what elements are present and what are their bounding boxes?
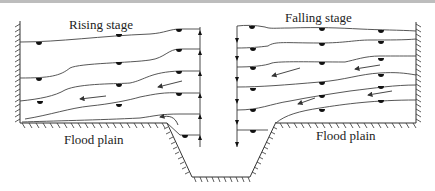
- falling-isolines: [237, 25, 416, 130]
- rising-isolines: [20, 29, 200, 135]
- floodplain-diagram: Rising stage Falling stage Flood plain F…: [0, 0, 435, 191]
- rising-boundary-arrows: [198, 27, 202, 147]
- falling-stage-label: Falling stage: [285, 10, 352, 25]
- falling-boundary-arrows: [235, 26, 239, 147]
- left-floodplain-floor: [20, 123, 167, 128]
- rising-stage-label: Rising stage: [69, 17, 133, 32]
- flood-plain-left-label: Flood plain: [64, 132, 124, 147]
- main-channel: [164, 122, 277, 182]
- flood-plain-right-label: Flood plain: [316, 128, 376, 143]
- right-floodplain-floor: [276, 123, 416, 128]
- right-wall: [416, 22, 421, 123]
- left-wall: [15, 21, 20, 123]
- falling-floats: [249, 26, 384, 133]
